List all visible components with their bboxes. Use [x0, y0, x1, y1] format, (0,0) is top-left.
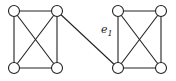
node-b3 — [113, 63, 124, 74]
node-b2 — [156, 6, 167, 17]
node-b1 — [113, 6, 124, 17]
graph-diagram: e1 — [0, 0, 176, 81]
node-a1 — [9, 6, 20, 17]
node-a4 — [52, 63, 63, 74]
node-a3 — [9, 63, 20, 74]
node-a2 — [52, 6, 63, 17]
edges — [14, 11, 161, 68]
edge-a2-b3 — [57, 11, 118, 68]
edge-label-e1: e1 — [101, 23, 113, 38]
node-b4 — [156, 63, 167, 74]
